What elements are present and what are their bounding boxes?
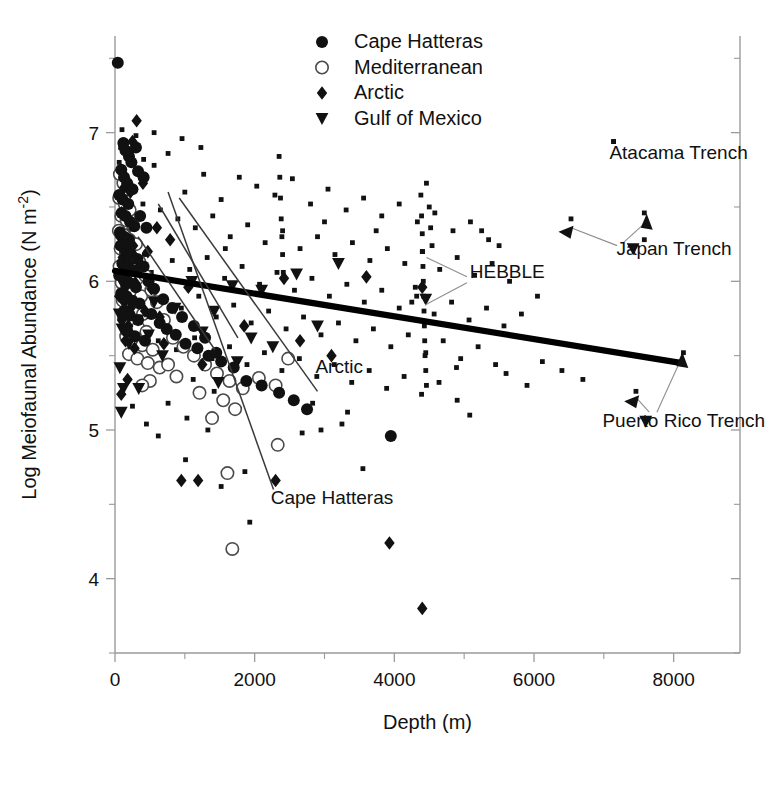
point-other-site — [423, 368, 428, 373]
point-other-site — [300, 431, 305, 436]
annotation-hebble: HEBBLE — [470, 261, 545, 282]
point-other-site — [519, 312, 524, 317]
point-other-site — [476, 344, 481, 349]
point-cape-hatteras — [138, 260, 150, 272]
point-other-site — [560, 368, 565, 373]
point-other-site — [344, 282, 349, 287]
point-other-site — [280, 228, 285, 233]
point-other-site — [219, 484, 224, 489]
point-other-site — [183, 457, 188, 462]
y-tick-label: 4 — [88, 569, 99, 590]
point-other-site — [254, 184, 259, 189]
point-cape-hatteras — [301, 403, 313, 415]
point-other-site — [278, 196, 283, 201]
point-other-site — [419, 213, 424, 218]
point-cape-hatteras — [288, 394, 300, 406]
point-arctic — [384, 536, 394, 550]
point-arctic — [279, 272, 289, 286]
point-other-site — [240, 264, 245, 269]
legend-marker-filled-triangle-down-icon — [316, 113, 329, 125]
point-arctic — [295, 334, 305, 348]
point-other-site — [441, 338, 446, 343]
point-other-site — [350, 240, 355, 245]
point-other-site — [152, 163, 157, 168]
point-other-site — [284, 326, 289, 331]
point-other-site — [326, 187, 331, 192]
point-other-site — [432, 312, 437, 317]
point-other-site — [371, 326, 376, 331]
arrowhead-japan-arrow-right — [641, 214, 653, 230]
point-other-site — [361, 466, 366, 471]
point-other-site — [424, 383, 429, 388]
y-axis-title: Log Meiofaunal Abundance (N m-2) — [15, 189, 40, 499]
point-other-site — [144, 422, 149, 427]
point-cape-hatteras — [157, 293, 169, 305]
point-other-site — [210, 213, 215, 218]
point-other-site — [273, 193, 278, 198]
figure-root: 456702000400060008000Depth (m)Log Meiofa… — [0, 0, 770, 804]
point-mediterranean — [221, 467, 233, 479]
point-other-site — [340, 422, 345, 427]
leader-puerto-leader-right — [657, 362, 680, 413]
point-other-site — [227, 344, 232, 349]
point-other-site — [156, 434, 161, 439]
point-other-site — [418, 193, 423, 198]
point-gulf-of-mexico — [245, 332, 258, 344]
point-other-site — [423, 353, 428, 358]
point-gulf-of-mexico — [115, 407, 128, 419]
y-tick-label: 6 — [88, 271, 99, 292]
point-other-site — [455, 255, 460, 260]
svg-text:Log Meiofaunal Abundance (N m-: Log Meiofaunal Abundance (N m-2) — [15, 189, 40, 499]
point-other-site — [192, 335, 197, 340]
point-other-site — [247, 520, 252, 525]
point-other-site — [275, 270, 280, 275]
point-other-site — [242, 469, 247, 474]
leader-japan-leader-left — [571, 228, 617, 246]
point-other-site — [280, 252, 285, 257]
legend-entry-cape-hatteras: Cape Hatteras — [316, 30, 483, 52]
point-other-site — [223, 246, 228, 251]
point-cape-hatteras — [126, 183, 138, 195]
point-other-site — [422, 338, 427, 343]
point-other-site — [525, 383, 530, 388]
point-cape-hatteras — [140, 222, 152, 234]
point-other-site — [290, 176, 295, 181]
point-arctic — [417, 602, 427, 616]
point-other-site — [187, 267, 192, 272]
point-cape-hatteras — [130, 281, 142, 293]
point-other-site — [497, 243, 502, 248]
point-other-site — [212, 389, 217, 394]
point-cape-hatteras — [210, 347, 222, 359]
point-other-site — [385, 246, 390, 251]
point-other-site — [298, 246, 303, 251]
point-other-site — [414, 294, 419, 299]
point-other-site — [397, 202, 402, 207]
point-other-site — [277, 154, 282, 159]
point-other-site — [415, 219, 420, 224]
point-other-site — [419, 392, 424, 397]
point-other-site — [191, 377, 196, 382]
point-other-site — [279, 216, 284, 221]
point-other-site — [455, 398, 460, 403]
point-mediterranean — [170, 370, 182, 382]
legend-label: Gulf of Mexico — [354, 107, 482, 129]
point-cape-hatteras — [138, 171, 150, 183]
point-other-site — [180, 136, 185, 141]
point-other-site — [179, 306, 184, 311]
point-other-site — [420, 231, 425, 236]
point-other-site — [308, 202, 313, 207]
point-other-site — [467, 318, 472, 323]
point-other-site — [451, 228, 456, 233]
point-other-site — [437, 267, 442, 272]
point-other-site — [279, 234, 284, 239]
point-other-site — [166, 401, 171, 406]
point-arctic — [193, 474, 203, 488]
legend-label: Cape Hatteras — [354, 30, 483, 52]
point-other-site — [182, 190, 187, 195]
point-other-site — [297, 356, 302, 361]
point-arctic — [361, 270, 371, 284]
point-other-site — [437, 380, 442, 385]
japan-point-right — [642, 211, 647, 216]
point-arctic — [165, 233, 175, 247]
legend-label: Arctic — [354, 81, 404, 103]
